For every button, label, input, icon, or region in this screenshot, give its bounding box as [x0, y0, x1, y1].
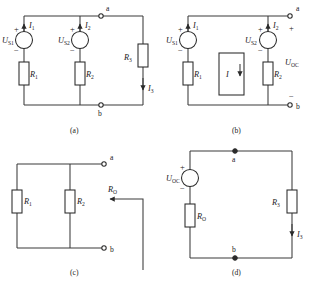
panel-c-label-R1: R1 — [23, 197, 32, 207]
panel-b-terminal-a — [288, 14, 292, 18]
panel-c-node-a: a — [110, 153, 114, 162]
panel-b-minus-US2: − — [258, 45, 263, 55]
panel-a-label-I1: I1 — [28, 21, 35, 31]
panel-c-caption: (c) — [70, 268, 79, 277]
panel-b-caption: (b) — [232, 126, 241, 135]
panel-d-caption: (d) — [232, 268, 241, 277]
panel-b-minus-US1: − — [178, 45, 183, 55]
panel-d-minus-UOC: − — [180, 183, 185, 193]
panel-b-label-I2: I2 — [272, 21, 279, 31]
panel-b-plus-UOC: + — [289, 23, 294, 33]
panel-b-minus-UOC: − — [289, 91, 294, 101]
panel-a-plus-US1: + — [14, 24, 19, 34]
panel-a-resistor-R2 — [75, 62, 85, 85]
panel-a-plus-US2: + — [70, 24, 75, 34]
panel-a-caption: (a) — [70, 126, 79, 135]
panel-b-node-b: b — [296, 102, 300, 111]
panel-b-plus-US1: + — [178, 24, 183, 34]
panel-c-resistor-R2 — [65, 190, 75, 213]
panel-d: UOC + − RO R3 I3 a b (d) — [166, 149, 303, 277]
panel-c-label-R2: R2 — [76, 197, 85, 207]
panel-c-label-RO: RO — [107, 185, 117, 195]
panel-c-RO-pointer — [110, 199, 143, 270]
panel-a-minus-US1: − — [14, 45, 19, 55]
panel-a-label-R1: R1 — [29, 70, 38, 80]
panel-d-node-b: b — [232, 245, 236, 254]
panel-b-resistor-R2 — [263, 62, 273, 85]
panel-c-terminal-a — [102, 162, 106, 166]
panel-a: US1 US2 + − + − R1 R2 R3 I1 I2 I3 a b (a… — [2, 4, 154, 135]
panel-a-terminal-b — [99, 103, 103, 107]
panel-d-label-R3: R3 — [271, 198, 280, 208]
panel-a-node-b: b — [98, 109, 102, 118]
panel-d-terminal-b — [233, 256, 238, 261]
panel-d-plus-UOC: + — [180, 162, 185, 172]
panel-a-label-R2: R2 — [85, 70, 94, 80]
panel-d-label-I3: I3 — [296, 230, 303, 240]
panel-b-plus-US2: + — [258, 24, 263, 34]
panel-a-node-a: a — [106, 4, 110, 13]
panel-c-resistor-R1 — [12, 190, 22, 213]
panel-a-label-I2: I2 — [84, 21, 91, 31]
panel-d-node-a: a — [232, 155, 236, 164]
panel-d-resistor-R3 — [287, 190, 297, 213]
panel-b: I US1 US2 + − + − R1 R2 I1 I2 + UOC − a … — [166, 4, 300, 135]
panel-a-resistor-R1 — [19, 62, 29, 85]
panel-c-node-b: b — [110, 245, 114, 254]
panel-a-label-US2: US2 — [58, 36, 70, 46]
panel-b-label-US2: US2 — [245, 36, 257, 46]
circuit-figure-sheet: US1 US2 + − + − R1 R2 R3 I1 I2 I3 a b (a… — [0, 0, 315, 289]
panel-c: R1 R2 RO a b (c) — [12, 153, 143, 277]
panel-c-terminal-b — [102, 246, 106, 250]
circuit-diagram-svg: US1 US2 + − + − R1 R2 R3 I1 I2 I3 a b (a… — [0, 0, 315, 289]
panel-a-label-US1: US1 — [2, 36, 14, 46]
panel-d-label-UOC: UOC — [166, 174, 180, 184]
panel-a-terminal-a — [99, 14, 103, 18]
panel-b-label-US1: US1 — [166, 36, 178, 46]
panel-a-minus-US2: − — [70, 45, 75, 55]
panel-b-terminal-b — [288, 103, 292, 107]
panel-b-node-a: a — [296, 4, 300, 13]
panel-d-resistor-RO — [185, 204, 195, 227]
panel-a-label-R3: R3 — [123, 53, 132, 63]
panel-d-terminal-a — [233, 149, 238, 154]
panel-b-label-R2: R2 — [273, 70, 282, 80]
panel-a-label-I3: I3 — [147, 84, 154, 94]
panel-d-label-RO: RO — [196, 212, 206, 222]
panel-b-label-UOC: UOC — [285, 58, 299, 68]
panel-b-label-I1: I1 — [192, 21, 199, 31]
panel-b-resistor-R1 — [183, 62, 193, 85]
panel-a-resistor-R3 — [138, 44, 148, 67]
panel-b-label-R1: R1 — [193, 70, 202, 80]
